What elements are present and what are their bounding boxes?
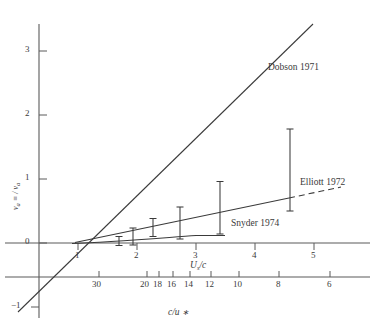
x-top-tick-label-3: 3 xyxy=(193,251,198,260)
x-top-tick-label-2: 2 xyxy=(134,251,139,260)
y-axis-title: va ≡ / va xyxy=(12,183,22,210)
y-tick-label-3: 3 xyxy=(25,45,30,54)
x-axis-top-ticks xyxy=(78,243,314,250)
curve-label-snyder-1974: Snyder 1974 xyxy=(231,219,279,229)
error-bar xyxy=(217,182,224,235)
x-top-axis-title: Us/c xyxy=(190,261,206,272)
x-bottom-tick-label-14: 14 xyxy=(184,280,193,289)
figure-wave-growth-chart: 3 2 1 0 −1 va ≡ / va 1 2 3 4 5 Us/c 30 2… xyxy=(0,0,377,334)
curve-elliott-1972-dashed-extension xyxy=(289,187,341,198)
x-bottom-tick-label-20: 20 xyxy=(140,280,149,289)
x-bottom-tick-label-8: 8 xyxy=(276,280,281,289)
curve-label-elliott-1972: Elliott 1972 xyxy=(300,178,345,188)
x-bottom-tick-label-12: 12 xyxy=(205,280,214,289)
y-tick-label-minus1: −1 xyxy=(11,301,21,310)
x-bottom-tick-label-10: 10 xyxy=(233,280,242,289)
error-bar xyxy=(177,207,184,239)
curve-label-dobson-1971: Dobson 1971 xyxy=(268,63,319,73)
x-top-tick-label-1: 1 xyxy=(75,251,80,260)
x-axis-bottom-ticks xyxy=(99,271,330,277)
y-tick-label-2: 2 xyxy=(25,109,30,118)
y-tick-label-1: 1 xyxy=(25,173,30,182)
x-bottom-tick-label-18: 18 xyxy=(153,280,162,289)
x-bottom-tick-label-30: 30 xyxy=(92,280,101,289)
x-top-tick-label-4: 4 xyxy=(252,251,257,260)
x-bottom-axis-title: c/u ∗ xyxy=(168,308,189,318)
x-top-tick-label-5: 5 xyxy=(311,251,316,260)
x-bottom-tick-label-16: 16 xyxy=(167,280,176,289)
error-bar xyxy=(150,219,157,237)
x-bottom-tick-label-6: 6 xyxy=(327,280,332,289)
y-tick-label-0: 0 xyxy=(25,237,30,246)
